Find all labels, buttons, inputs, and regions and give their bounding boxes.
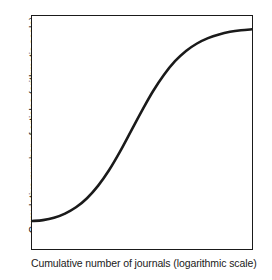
plot-frame xyxy=(31,15,253,250)
sigmoid-curve-svg xyxy=(32,16,252,249)
sigmoid-curve-path xyxy=(32,29,252,221)
x-axis-label: Cumulative number of journals (logarithm… xyxy=(31,258,253,269)
figure-container: Cumulative number of articles (arithmeti… xyxy=(0,0,272,280)
